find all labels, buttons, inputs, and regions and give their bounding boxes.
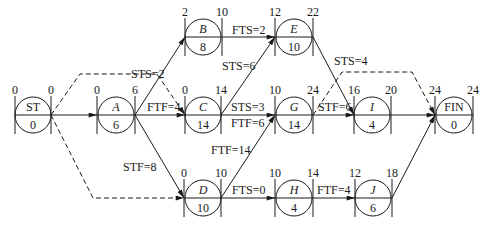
node-duration: 10 [197,201,209,215]
node-early-start: 24 [429,83,441,97]
node-early-finish: 24 [307,83,319,97]
link-label-g-i: STF=6 [318,100,351,114]
node-h: H 4 10 14 [269,166,319,217]
node-early-start: 10 [269,166,281,180]
node-early-finish: 0 [48,83,54,97]
node-early-finish: 14 [215,83,227,97]
link-label-e-i: STS=4 [334,54,367,68]
link-label-a-b: STS=2 [131,67,164,81]
node-c: C 14 0 14 [182,83,227,134]
node-j: J 6 12 18 [349,166,398,217]
node-st: ST 0 0 0 [12,83,54,134]
link-label-a-d: STF=8 [123,160,156,174]
node-label: E [289,22,298,36]
node-duration: 14 [197,118,209,132]
link-label-c-g-sts: STS=3 [231,100,264,114]
node-early-start: 12 [349,166,361,180]
link-label-c-e: STS=6 [222,59,255,73]
link-label-b-e: FTS=2 [232,23,265,37]
node-duration: 10 [288,40,300,54]
node-label: H [289,183,300,197]
link-labels: STS=2 FTF=4 STF=8 FTS=2 STS=6 STS=3 FTF=… [123,23,367,197]
link-label-h-j: FTF=4 [317,183,350,197]
node-early-finish: 10 [216,5,228,19]
link-j-fin [392,115,435,198]
node-duration: 6 [113,118,119,132]
node-a: A 6 0 6 [94,83,138,134]
node-e: E 10 12 22 [269,5,319,56]
node-early-start: 0 [12,83,18,97]
node-label: ST [26,100,41,114]
node-label: B [199,22,207,36]
node-duration: 14 [288,118,300,132]
node-i: I 4 16 20 [348,83,397,134]
node-d: D 10 0 10 [181,166,227,217]
node-early-finish: 24 [467,83,479,97]
node-duration: 4 [291,201,297,215]
node-early-start: 16 [348,83,360,97]
node-label: FIN [444,100,464,114]
node-duration: 4 [369,118,375,132]
node-fin: FIN 0 24 24 [429,83,479,134]
node-label: J [370,183,376,197]
link-a-d [135,115,184,198]
node-label: D [198,183,208,197]
node-g: G 14 10 24 [269,83,319,134]
node-early-start: 0 [181,166,187,180]
node-duration: 0 [451,118,457,132]
link-label-a-c: FTF=4 [147,100,180,114]
node-label: G [290,100,299,114]
node-duration: 0 [30,118,36,132]
node-early-start: 12 [269,5,281,19]
node-duration: 8 [200,40,206,54]
node-early-start: 0 [182,83,188,97]
node-early-finish: 18 [386,166,398,180]
node-early-finish: 10 [215,166,227,180]
node-early-finish: 14 [307,166,319,180]
node-early-start: 2 [182,5,188,19]
node-label: A [111,100,120,114]
link-label-d-g: FTF=14 [211,143,250,157]
node-b: B 8 2 10 [182,5,228,56]
link-label-d-h: FTS=0 [232,183,265,197]
node-early-finish: 22 [307,5,319,19]
node-early-start: 0 [94,83,100,97]
node-label: C [199,100,208,114]
node-early-start: 10 [269,83,281,97]
link-label-c-g-ftf: FTF=6 [231,116,264,130]
node-duration: 6 [370,201,376,215]
precedence-network-diagram: STS=2 FTF=4 STF=8 FTS=2 STS=6 STS=3 FTF=… [0,0,488,228]
node-early-finish: 6 [132,83,138,97]
node-early-finish: 20 [385,83,397,97]
